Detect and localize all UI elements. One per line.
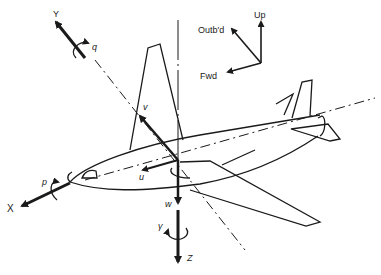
y-axis-label: Y xyxy=(53,9,59,19)
w-velocity-label: w xyxy=(165,199,172,209)
up-label: Up xyxy=(254,10,266,20)
p-rate-label: p xyxy=(41,177,47,187)
u-velocity-label: u xyxy=(139,172,144,182)
forward-label: Fwd xyxy=(200,71,217,81)
reference-frame xyxy=(228,22,261,72)
q-rate-label: q xyxy=(92,42,97,52)
z-axis-label: Z xyxy=(186,253,193,263)
r-rate-label: γ xyxy=(158,221,163,231)
body-axis-arrows xyxy=(22,22,178,262)
outboard-label: Outb'd xyxy=(198,25,224,35)
axis-reference-lines xyxy=(85,20,375,250)
x-axis-label: X xyxy=(7,203,14,214)
v-velocity-label: v xyxy=(143,102,148,112)
aircraft-axes-diagram: Up Outb'd Fwd Y q v u w γ Z p X xyxy=(0,0,381,275)
